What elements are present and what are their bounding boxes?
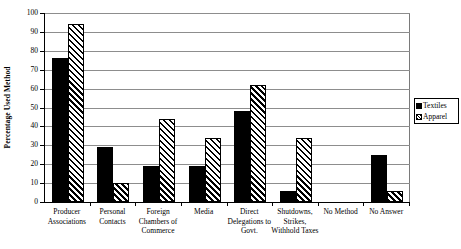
y-axis-tick-label: 90 xyxy=(10,28,38,36)
legend-item[interactable]: Apparel xyxy=(416,111,457,122)
y-axis-tick-label: 60 xyxy=(10,85,38,93)
y-axis-tick-label: 70 xyxy=(10,66,38,74)
bar-chart: Percentage Used Method 01020304050607080… xyxy=(0,0,461,249)
bar-group xyxy=(273,13,319,202)
hatched-square-icon xyxy=(416,114,422,120)
y-axis-tick-label: 10 xyxy=(10,179,38,187)
x-axis-tick-mark xyxy=(90,202,91,206)
x-axis-tick-mark xyxy=(227,202,228,206)
bar-group-bars xyxy=(319,13,365,202)
bar-textiles[interactable] xyxy=(189,166,205,202)
y-axis-tick-label: 30 xyxy=(10,141,38,149)
x-axis-category-label-line: Strikes, xyxy=(261,217,329,227)
bar-group xyxy=(228,13,274,202)
bar-apparel[interactable] xyxy=(296,138,312,202)
bar-textiles[interactable] xyxy=(234,111,250,202)
plot-area xyxy=(44,13,410,203)
x-axis-tick-mark xyxy=(135,202,136,206)
bar-apparel[interactable] xyxy=(113,183,129,202)
solid-black-square-icon xyxy=(416,103,422,109)
x-axis-tick-mark xyxy=(181,202,182,206)
x-axis-category-label: No Answer xyxy=(352,207,420,217)
bar-textiles[interactable] xyxy=(97,147,113,202)
bar-group xyxy=(319,13,365,202)
bar-apparel[interactable] xyxy=(250,85,266,202)
bar-group xyxy=(91,13,137,202)
bar-apparel[interactable] xyxy=(387,191,403,202)
x-axis-category-label-line: Withhold Taxes xyxy=(261,226,329,236)
bar-textiles[interactable] xyxy=(52,58,68,202)
bar-group-bars xyxy=(273,13,319,202)
chart-legend: Textiles Apparel xyxy=(414,98,459,124)
x-axis-tick-mark xyxy=(409,202,410,206)
bar-group-bars xyxy=(182,13,228,202)
bar-group-bars xyxy=(228,13,274,202)
x-axis-tick-mark xyxy=(363,202,364,206)
x-axis-category-label-line: No Answer xyxy=(352,207,420,217)
y-axis-tick-label: 40 xyxy=(10,122,38,130)
y-axis-tick-label: 100 xyxy=(10,9,38,17)
x-axis-category-label-line: Commerce xyxy=(124,226,192,236)
bar-textiles[interactable] xyxy=(280,191,296,202)
bar-group-bars xyxy=(364,13,410,202)
x-axis-tick-mark xyxy=(272,202,273,206)
bar-textiles[interactable] xyxy=(143,166,159,202)
y-axis-tick-label: 20 xyxy=(10,160,38,168)
legend-item-label: Textiles xyxy=(423,102,447,110)
bar-textiles[interactable] xyxy=(371,155,387,202)
x-axis-category-label-line: Chambers of xyxy=(124,217,192,227)
legend-item[interactable]: Textiles xyxy=(416,100,457,111)
bar-group-bars xyxy=(91,13,137,202)
x-axis-tick-mark xyxy=(318,202,319,206)
bar-group xyxy=(182,13,228,202)
bar-group xyxy=(45,13,91,202)
y-axis-tick-label: 50 xyxy=(10,104,38,112)
bar-apparel[interactable] xyxy=(205,138,221,202)
legend-item-label: Apparel xyxy=(423,113,447,121)
bar-apparel[interactable] xyxy=(68,24,84,202)
y-axis-tick-label: 0 xyxy=(10,198,38,206)
y-axis-tick-label: 80 xyxy=(10,47,38,55)
bar-apparel[interactable] xyxy=(159,119,175,202)
bar-group-bars xyxy=(136,13,182,202)
bar-group xyxy=(136,13,182,202)
bar-group-bars xyxy=(45,13,91,202)
bar-group xyxy=(364,13,410,202)
